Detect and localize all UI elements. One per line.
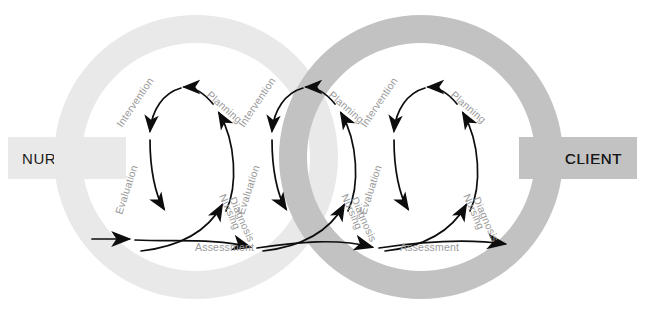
cycle2-label-evaluation: Evaluation — [234, 163, 261, 215]
cycle3-label-evaluation: Evaluation — [356, 163, 383, 215]
cycle3-label-intervention: Intervention — [358, 75, 400, 129]
cycle2-label-intervention: Intervention — [236, 75, 278, 129]
client-label-top: CLIENT — [565, 150, 622, 167]
cycle1-label-intervention: Intervention — [114, 75, 156, 129]
cycle-3-labels: Intervention Evaluation Planning Nursing… — [356, 75, 501, 244]
cycle3-arrow-evaluation — [394, 140, 408, 209]
cycle3-label-planning: Planning — [449, 88, 489, 125]
cycle-1 — [141, 87, 234, 251]
cycle-1-labels: Intervention Evaluation Planning Nursing… — [112, 75, 257, 253]
nursing-process-diagram: NURSE CLIENT CLIENT — [0, 0, 645, 312]
cycle1-arrow-intervention — [150, 88, 181, 131]
cycle-2-labels: Intervention Evaluation Planning Nursing… — [234, 75, 459, 253]
cycle-3 — [385, 87, 478, 251]
cycle3-arrow-intervention — [394, 88, 425, 131]
cycle2-label-assessment: Assessment — [400, 241, 459, 253]
cycle1-arrow-evaluation — [150, 140, 164, 209]
cycle1-label-assessment: Assessment — [195, 241, 254, 253]
diagram-canvas: NURSE CLIENT CLIENT — [0, 0, 645, 312]
